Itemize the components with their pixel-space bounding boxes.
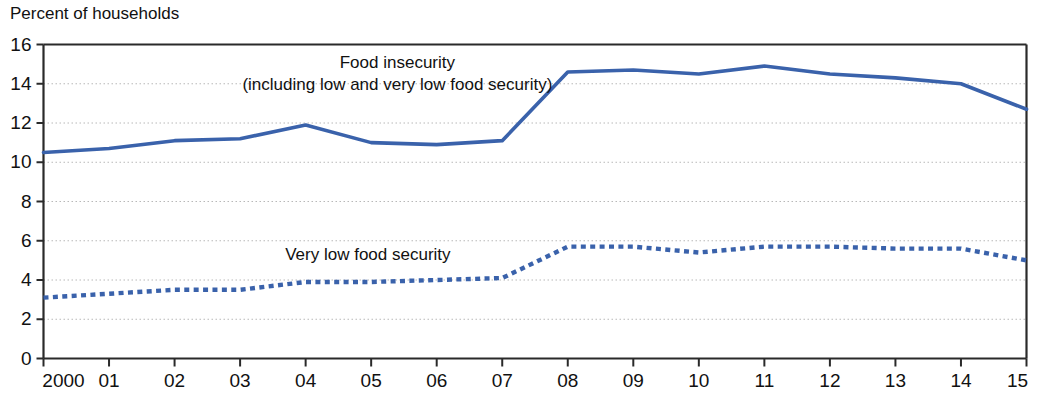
chart-plot-area: 0246810121416 20000102030405060708091011… xyxy=(0,0,1057,405)
y-tick-label: 12 xyxy=(10,112,31,133)
x-tick-label: 13 xyxy=(885,370,906,391)
very-low-food-security-label: Very low food security xyxy=(285,245,451,264)
x-axis-ticks: 2000010203040506070809101112131415 xyxy=(42,359,1028,391)
data-series-group xyxy=(44,66,1027,298)
x-tick-label: 03 xyxy=(230,370,251,391)
x-tick-label: 01 xyxy=(98,370,119,391)
series-annotations-group: Food insecurity(including low and very l… xyxy=(242,53,552,264)
y-tick-label: 2 xyxy=(21,308,32,329)
x-tick-label: 02 xyxy=(164,370,185,391)
y-tick-label: 4 xyxy=(21,269,32,290)
x-tick-label: 10 xyxy=(688,370,709,391)
y-tick-label: 16 xyxy=(10,34,31,55)
x-tick-label: 11 xyxy=(754,370,774,391)
y-tick-label: 10 xyxy=(10,151,31,172)
x-tick-label: 14 xyxy=(950,370,972,391)
gridlines-group xyxy=(44,84,1027,320)
y-axis-ticks: 0246810121416 xyxy=(10,34,43,369)
x-tick-label: 2000 xyxy=(42,370,84,391)
series-line-very-low-food-security xyxy=(44,247,1027,298)
x-tick-label: 06 xyxy=(426,370,447,391)
x-tick-label: 09 xyxy=(623,370,644,391)
y-tick-label: 6 xyxy=(21,230,32,251)
y-tick-label: 8 xyxy=(21,191,32,212)
x-tick-label: 12 xyxy=(819,370,840,391)
food-insecurity-sublabel: (including low and very low food securit… xyxy=(242,75,552,94)
y-tick-label: 0 xyxy=(21,348,32,369)
x-tick-label: 07 xyxy=(492,370,513,391)
x-tick-label: 05 xyxy=(361,370,382,391)
food-insecurity-label: Food insecurity xyxy=(340,53,456,72)
x-tick-label: 04 xyxy=(295,370,317,391)
chart-figure: Percent of households 0246810121416 2000… xyxy=(0,0,1057,405)
y-tick-label: 14 xyxy=(10,73,32,94)
x-tick-label: 08 xyxy=(557,370,578,391)
x-tick-label: 15 xyxy=(1007,370,1028,391)
